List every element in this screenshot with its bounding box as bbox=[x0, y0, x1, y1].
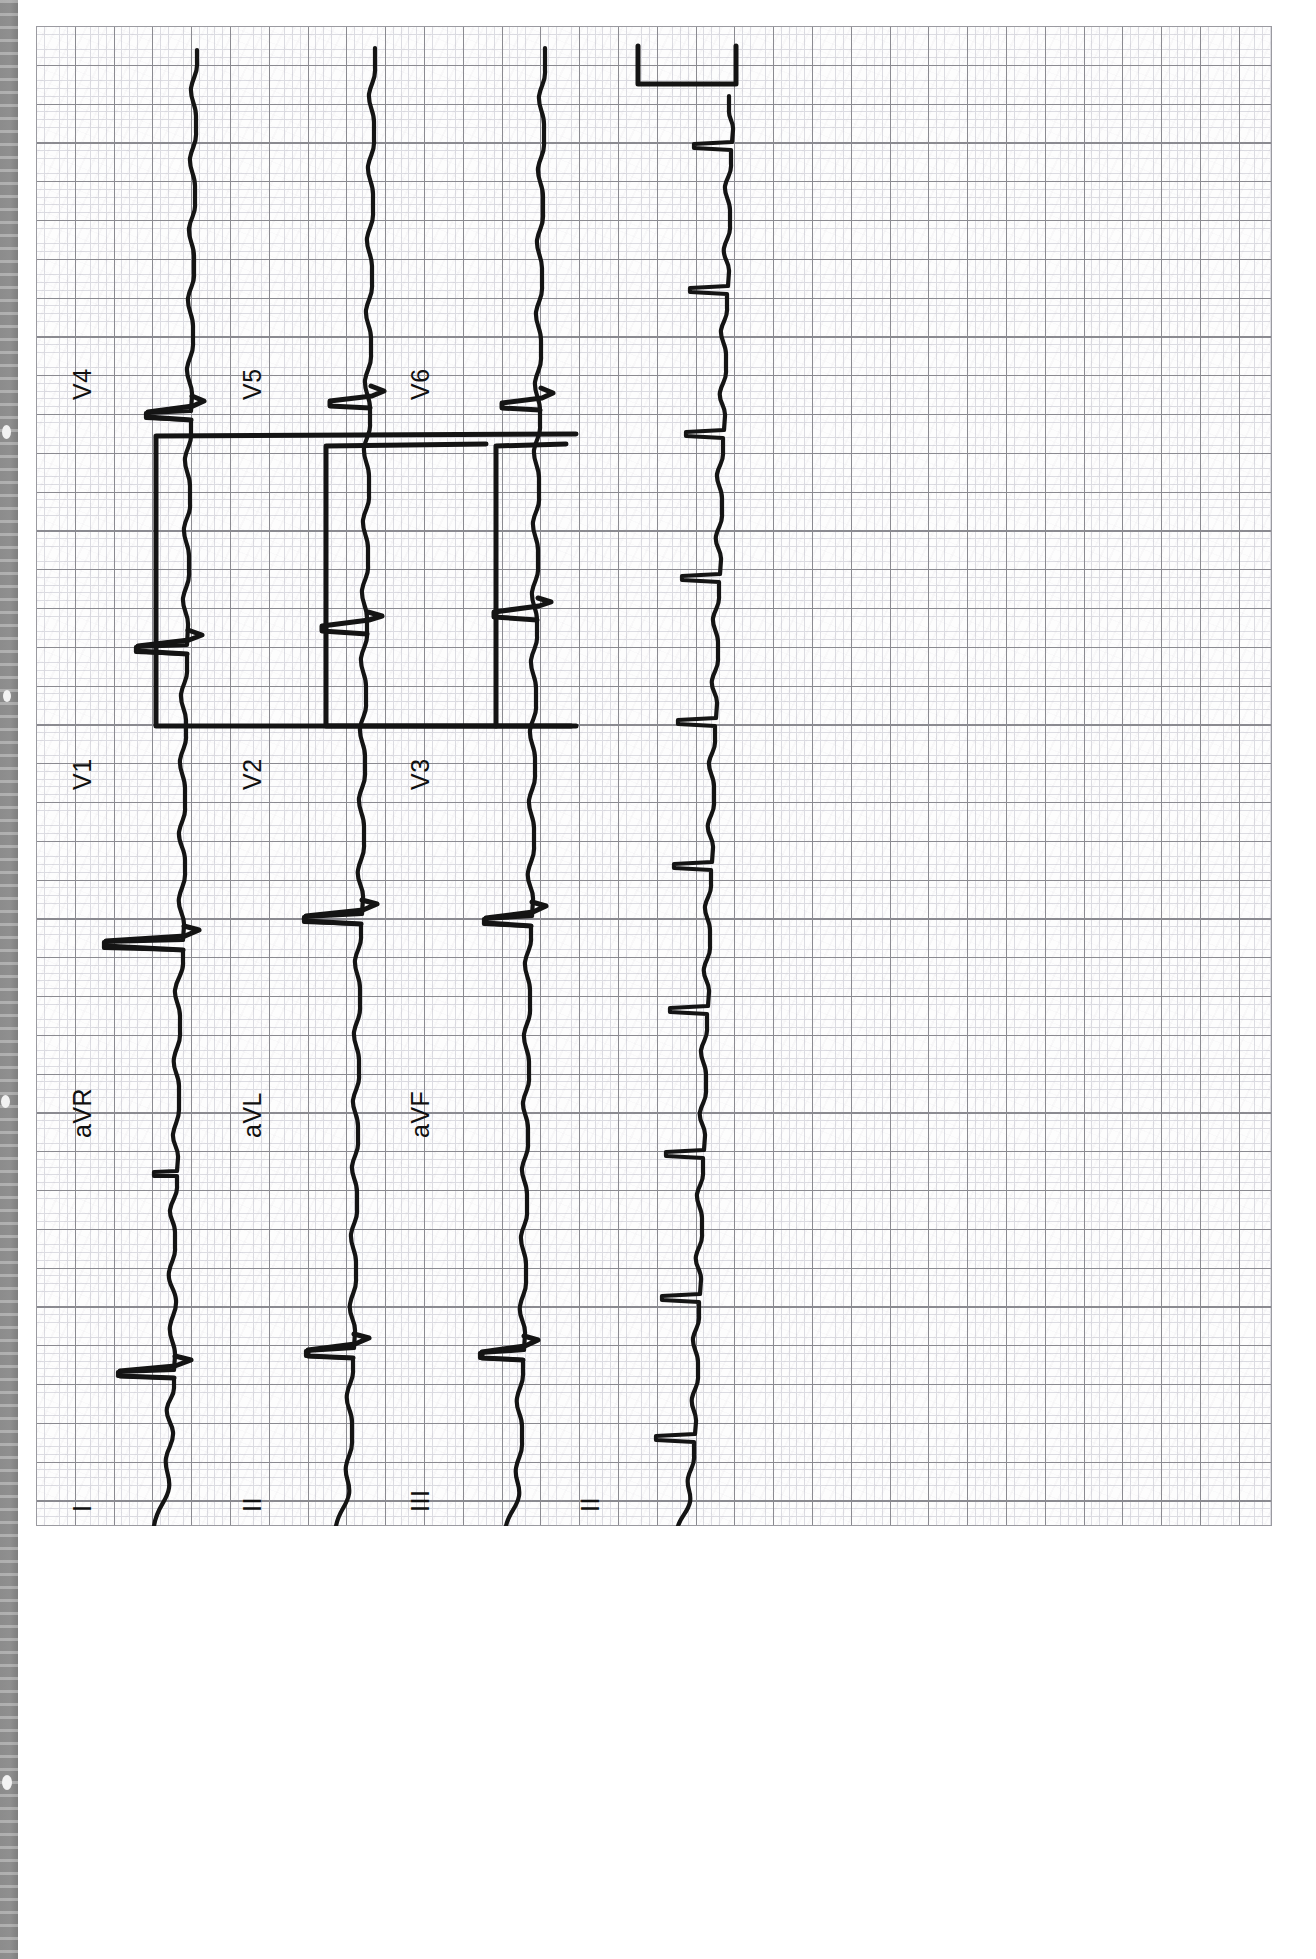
lead-label-V1: V1 bbox=[70, 758, 95, 790]
trace-row-1 bbox=[104, 42, 576, 1526]
ecg-traces bbox=[36, 26, 1272, 1526]
trace-rhythm-strip bbox=[638, 46, 736, 1526]
lead-label-aVL: aVL bbox=[240, 1092, 265, 1138]
lead-label-V5: V5 bbox=[240, 368, 265, 400]
ecg-page: I II III II aVR aVL aVF V1 V2 V3 V4 V5 V… bbox=[0, 0, 1316, 1959]
lead-label-V3: V3 bbox=[408, 758, 433, 790]
lead-label-V6: V6 bbox=[408, 368, 433, 400]
lead-label-II: II bbox=[240, 1497, 265, 1512]
lead-label-aVF: aVF bbox=[408, 1091, 433, 1138]
lead-label-II-rhythm: II bbox=[578, 1497, 603, 1512]
lead-label-I: I bbox=[70, 1505, 95, 1512]
lead-label-V2: V2 bbox=[240, 758, 265, 790]
trace-row-3 bbox=[464, 44, 571, 1526]
lead-label-V4: V4 bbox=[70, 368, 95, 400]
lead-label-III: III bbox=[408, 1490, 433, 1512]
trace-row-2 bbox=[292, 44, 496, 1526]
lead-label-aVR: aVR bbox=[70, 1088, 95, 1138]
scanned-edge-strip bbox=[0, 0, 18, 1959]
